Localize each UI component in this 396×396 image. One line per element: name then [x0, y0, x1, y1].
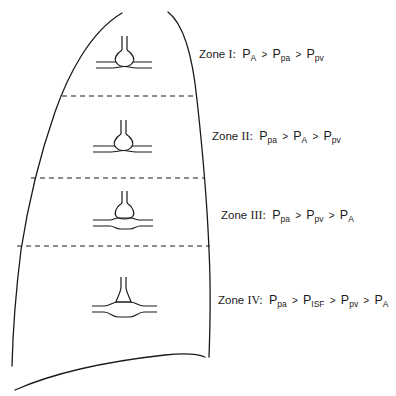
- pressure-subscript: pv: [315, 214, 324, 224]
- lung-outline-left: [12, 13, 122, 366]
- zone-3-label: Zone III: Ppa > Ppv > PA: [221, 209, 354, 222]
- lung-outline-right: [168, 12, 210, 357]
- zone-2-label: Zone II: Ppa > PA > Ppv: [212, 130, 341, 143]
- zone-1-label: Zone I: PA > Ppa > Ppv: [199, 48, 324, 61]
- pressure-subscript: A: [251, 53, 257, 63]
- operator: >: [261, 49, 267, 60]
- pressure-subscript: A: [348, 214, 354, 224]
- pressure-subscript: pa: [267, 135, 276, 145]
- operator: >: [330, 295, 336, 306]
- pressure-symbol: P: [293, 129, 301, 143]
- pressure-subscript: pa: [281, 53, 290, 63]
- pressure-subscript: ISF: [311, 299, 324, 309]
- operator: >: [292, 295, 298, 306]
- zone-numeral: III:: [250, 208, 265, 222]
- pressure-subscript: pa: [277, 299, 286, 309]
- pressure-symbol: P: [269, 293, 277, 307]
- zone-label-prefix: Zone: [218, 294, 244, 306]
- zone-4-label: Zone IV: Ppa > PISF > Ppv > PA: [218, 294, 388, 307]
- pressure-symbol: P: [374, 293, 382, 307]
- zone-label-prefix: Zone: [212, 130, 238, 142]
- pressure-symbol: P: [340, 208, 348, 222]
- zone-numeral: II:: [241, 129, 252, 143]
- operator: >: [295, 49, 301, 60]
- lung-outline-base: [15, 354, 205, 390]
- pressure-subscript: pv: [315, 53, 324, 63]
- pressure-symbol: P: [272, 47, 280, 61]
- operator: >: [295, 210, 301, 221]
- pressure-subscript: A: [383, 299, 389, 309]
- zone-1-vessel-icon: [96, 36, 152, 68]
- pressure-symbol: P: [341, 293, 349, 307]
- pressure-subscript: pa: [280, 214, 289, 224]
- pressure-symbol: P: [306, 208, 314, 222]
- pressure-symbol: P: [306, 47, 314, 61]
- operator: >: [312, 131, 318, 142]
- zone-2-vessel-icon: [93, 120, 152, 152]
- pressure-symbol: P: [242, 47, 250, 61]
- operator: >: [282, 131, 288, 142]
- zone-3-vessel-icon: [93, 191, 153, 229]
- operator: >: [329, 210, 335, 221]
- zone-label-prefix: Zone: [221, 209, 247, 221]
- zone-label-prefix: Zone: [199, 48, 225, 60]
- pressure-subscript: A: [302, 135, 308, 145]
- lung-diagram: [0, 0, 396, 396]
- pressure-subscript: pv: [349, 299, 358, 309]
- pressure-subscript: pv: [332, 135, 341, 145]
- operator: >: [363, 295, 369, 306]
- pressure-symbol: P: [323, 129, 331, 143]
- zone-4-vessel-icon: [92, 277, 157, 317]
- zone-numeral: IV:: [247, 293, 262, 307]
- zone-numeral: I:: [228, 47, 235, 61]
